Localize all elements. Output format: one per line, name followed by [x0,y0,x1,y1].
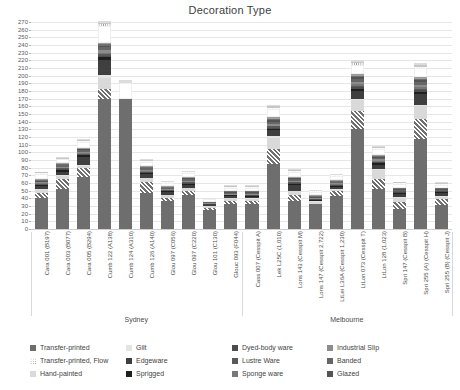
y-axis-tick-label: 70 [21,172,28,178]
bar-segment [267,109,280,117]
y-axis-tick-label: 210 [18,65,28,71]
bar-stack[interactable] [77,139,90,229]
bar-segment [98,26,111,43]
y-axis-tick-label: 60 [21,180,28,186]
legend-swatch [30,358,36,364]
x-axis-label: Glou 097 (C220) [191,231,197,275]
bar-stack[interactable] [267,105,280,229]
legend-item[interactable]: Edgeware [126,354,232,367]
bar-segment [351,111,364,129]
bar-segment [140,182,153,193]
y-axis-tick-label: 40 [21,195,28,201]
legend-item[interactable]: Lustre Ware [232,354,327,367]
y-axis-tick-label: 200 [18,73,28,79]
x-axis-label: Cumb 122 (A138) [107,231,113,278]
y-axis-tick-label: 0 [25,226,28,232]
y-axis-tick-label: 170 [18,96,28,102]
bar-segment [267,164,280,229]
bar-stack[interactable] [288,169,301,229]
legend-item[interactable]: Dyed-body ware [232,341,327,354]
bar-stack[interactable] [35,172,48,229]
bar-segment [351,65,364,74]
bar-stack[interactable] [414,63,427,229]
legend-swatch [126,371,132,377]
legend-item[interactable]: Hand-painted [30,367,126,380]
bar-segment [267,149,280,164]
legend-item[interactable]: Transfer-printed [30,341,126,354]
legend-label: Banded [337,357,361,364]
y-axis-tick-label: 240 [18,42,28,48]
bar-segment [393,209,406,229]
legend-item[interactable]: Glazed [327,367,407,380]
bar-stack[interactable] [203,199,216,229]
bar-stack[interactable] [119,80,132,229]
x-axis-label: Lek L25C (1,010) [276,231,282,277]
y-axis-tick-label: 50 [21,188,28,194]
y-axis-tick-label: 260 [18,27,28,33]
bar-stack[interactable] [435,182,448,229]
bar-segment [77,157,90,165]
y-axis-tick-label: 80 [21,165,28,171]
legend-swatch [30,371,36,377]
bar-segment [435,205,448,229]
bar-segment [224,204,237,229]
bar-segment [351,129,364,229]
bar-segment [372,149,385,156]
bar-stack[interactable] [351,60,364,229]
bar-stack[interactable] [182,171,195,229]
x-axis-label: Cara 005 (B294) [86,231,92,275]
bar-segment [351,100,364,111]
legend-label: Transfer-printed, Flow [40,357,108,364]
bar-stack[interactable] [393,182,406,229]
x-axis-label: Cumb 124 (A310) [128,231,134,278]
bar-segment [56,189,69,229]
bar-segment [309,204,322,229]
legend-item[interactable]: Transfer-printed, Flow [30,354,126,367]
legend-swatch [232,358,238,364]
group-label-melbourne: Melbourne [242,316,453,323]
x-axis-label: LtLei L36A (Cesspit 1,230) [339,231,345,302]
legend-item[interactable]: Gilt [126,341,232,354]
legend-item[interactable]: Industrial Slip [327,341,407,354]
bar-stack[interactable] [98,21,111,229]
legend-swatch [232,345,238,351]
y-axis-tick-label: 220 [18,57,28,63]
bar-stack[interactable] [56,157,69,229]
bar-stack[interactable] [330,174,343,229]
x-axis-label: Spri 147 (Cesspit B) [402,231,408,285]
bar-stack[interactable] [224,185,237,229]
legend-swatch [30,345,36,351]
bar-segment [393,202,406,209]
x-axis-label: Lons 143 (Cesspit M) [297,231,303,288]
legend-item[interactable]: Sponge ware [232,367,327,380]
bar-stack[interactable] [161,181,174,229]
x-axis-label: Spri 255 (B) (Cesspit J) [444,231,450,293]
legend-item[interactable]: Sprigged [126,367,232,380]
y-axis-tick-label: 30 [21,203,28,209]
bar-segment [98,78,111,90]
legend-label: Gilt [136,344,147,351]
bar-segment [351,91,364,99]
legend-label: Dyed-body ware [242,344,293,351]
legend: Transfer-printedGiltDyed-body wareIndust… [30,341,455,383]
bar-stack[interactable] [245,185,258,229]
y-axis-tick-label: 180 [18,88,28,94]
legend-swatch [327,345,333,351]
group-label-sydney: Sydney [31,316,242,323]
bar-segment [182,195,195,229]
x-axis-label: Spri 255 (A) (Cesspit H) [423,231,429,295]
x-axis-label: Glou 097 (C056) [170,231,176,275]
x-axis-label: Cumb 126 (A140) [149,231,155,278]
y-axis-tick-label: 150 [18,111,28,117]
bar-segment [98,99,111,229]
bar-stack[interactable] [372,146,385,229]
legend-label: Industrial Slip [337,344,379,351]
bar-segment [372,179,385,189]
bar-stack[interactable] [140,159,153,229]
bar-segment [203,210,216,229]
legend-item[interactable]: Banded [327,354,407,367]
legend-swatch [327,371,333,377]
bar-stack[interactable] [309,190,322,229]
x-axis-group-labels: SydneyMelbourne [31,316,452,332]
legend-swatch [126,345,132,351]
